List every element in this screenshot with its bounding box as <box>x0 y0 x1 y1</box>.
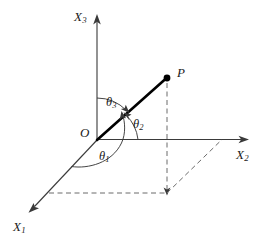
point-p-label: P <box>177 66 185 79</box>
x2-axis-label: X2 <box>236 148 249 163</box>
x2-axis-label-base: X <box>236 147 244 162</box>
x2-projection-dashed <box>167 140 222 194</box>
origin-label: O <box>80 126 89 139</box>
x1-axis-label-base: X <box>13 219 21 234</box>
theta2-label-sub: 2 <box>139 122 143 132</box>
x3-axis-label-base: X <box>74 9 82 24</box>
x1-axis-arrowhead <box>29 203 40 213</box>
theta2-label: θ2 <box>133 118 144 132</box>
x2-axis-label-sub: 2 <box>244 153 248 163</box>
point-p-dot <box>164 75 171 82</box>
x1-axis-line <box>35 140 98 207</box>
direction-angles-diagram: X3 X2 X1 O P θ3 θ2 θ1 <box>0 0 266 241</box>
x3-axis-label-sub: 3 <box>82 15 86 25</box>
theta3-arc-arrowhead <box>121 105 130 113</box>
theta3-label-sub: 3 <box>112 100 116 110</box>
x1-axis-label-sub: 1 <box>21 225 25 235</box>
x1-axis-label: X1 <box>13 220 26 235</box>
x3-axis-label: X3 <box>74 10 87 25</box>
theta1-label: θ1 <box>99 150 110 164</box>
theta3-label: θ3 <box>106 96 117 110</box>
theta1-label-sub: 1 <box>105 154 109 164</box>
